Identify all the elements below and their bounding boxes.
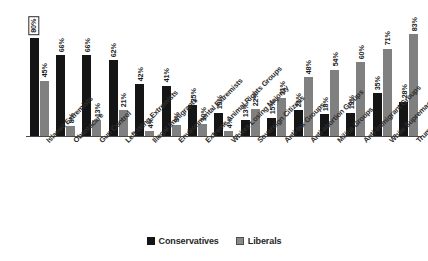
bar-conservatives[interactable]: 80% [30, 8, 39, 136]
bar-liberals[interactable]: 45% [40, 8, 49, 136]
bar-conservatives[interactable]: 21% [294, 8, 303, 136]
category-label: White Supremacists [388, 139, 393, 144]
category-label: Islamic Extremists [45, 139, 50, 144]
category-label: Whites Losing Majority [230, 139, 235, 144]
legend-label: Conservatives [159, 236, 219, 246]
bar-value-label: 48% [305, 60, 312, 74]
bar-value-label: 80% [28, 17, 39, 36]
bar-value-label: 83% [411, 17, 418, 31]
legend-label: Liberals [248, 236, 282, 246]
bar-rect: 45% [40, 81, 49, 136]
bar-value-label: 42% [137, 68, 144, 82]
bar-value-label: 71% [385, 32, 392, 46]
bar-conservatives[interactable]: 25% [188, 8, 197, 136]
legend-swatch-icon [147, 237, 155, 245]
category-label: Extreme Animal Rights Groups [204, 139, 209, 144]
category-label: Anti-Immigrant Groups [362, 139, 367, 144]
category-label: Environmental Extremists [177, 139, 182, 144]
legend-item[interactable]: Liberals [236, 236, 282, 246]
legend-item[interactable]: Conservatives [147, 236, 219, 246]
category-label: Gun Control [98, 139, 103, 144]
bar-conservatives[interactable]: 13% [241, 8, 250, 136]
category-label: Trumpcare [415, 139, 420, 144]
bar-value-label: 66% [84, 38, 91, 52]
bar-group: 80%45% [26, 8, 52, 136]
bar-rect: 80% [30, 38, 39, 136]
category-label: Illegal Immigrants [151, 139, 156, 144]
bar-value-label: 54% [332, 53, 339, 67]
legend-swatch-icon [236, 237, 244, 245]
category-axis-labels: Islamic ExtremistsObamacareGun ControlLe… [26, 137, 422, 229]
bar-chart: 80%45%66%8%66%13%62%21%42%4%41%9%25%10%1… [0, 0, 428, 261]
bar-value-label: 21% [121, 93, 128, 107]
bar-conservatives[interactable]: 41% [162, 8, 171, 136]
bar-value-label: 35% [375, 76, 382, 90]
bar-conservatives[interactable]: 19% [346, 8, 355, 136]
bar-value-label: 62% [111, 43, 118, 57]
category-label: Anti-abortion Groups [309, 139, 314, 144]
bar-value-label: 45% [41, 64, 48, 78]
bar-value-label: 66% [58, 38, 65, 52]
bar-conservatives[interactable]: 66% [56, 8, 65, 136]
bar-conservatives[interactable]: 19% [214, 8, 223, 136]
bar-conservatives[interactable]: 62% [109, 8, 118, 136]
category-label: Sovereign Citizens [256, 139, 261, 144]
bar-value-label: 41% [163, 69, 170, 83]
category-label: Left-Wing Extremists [124, 139, 129, 144]
category-label: Obamacare [72, 139, 77, 144]
bar-value-label: 60% [358, 45, 365, 59]
category-label: Anti-tax Groups [283, 139, 288, 144]
bar-conservatives[interactable]: 35% [373, 8, 382, 136]
chart-legend: ConservativesLiberals [0, 236, 428, 246]
bar-conservatives[interactable]: 18% [320, 8, 329, 136]
bar-conservatives[interactable]: 66% [82, 8, 91, 136]
category-label: Militia Groups [336, 139, 341, 144]
